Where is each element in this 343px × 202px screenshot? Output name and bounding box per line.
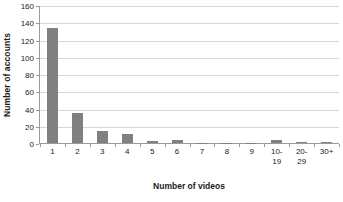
x-axis-tick-label: 30+ [314, 147, 339, 167]
y-axis-tick-label: 0 [30, 140, 34, 149]
bar[interactable] [147, 141, 158, 143]
y-axis-tick-label: 160 [21, 2, 34, 11]
y-axis-tick-mark [36, 58, 39, 59]
bar[interactable] [296, 142, 307, 143]
bar-chart: Number of accounts 160140120100806040200… [0, 0, 343, 202]
bar[interactable] [97, 131, 108, 143]
y-axis-tick-mark [36, 127, 39, 128]
x-axis-tick-label-line2: 19 [264, 157, 289, 167]
bar-slot [65, 6, 90, 143]
x-axis-tick-label-line1: 7 [190, 147, 215, 157]
y-axis-tick-label: 60 [25, 88, 34, 97]
y-axis-tick-mark [36, 23, 39, 24]
x-axis-tick-label: 5 [140, 147, 165, 167]
y-axis-tick-label: 80 [25, 71, 34, 80]
x-axis-tick-label-line1: 5 [140, 147, 165, 157]
x-axis-tick-label: 9 [239, 147, 264, 167]
x-axis-tick-label-line1: 1 [40, 147, 65, 157]
y-axis-title: Number of accounts [0, 0, 14, 150]
x-axis-tick-label: 10-19 [264, 147, 289, 167]
y-axis-tick-mark [36, 6, 39, 7]
bar-slot [190, 6, 215, 143]
bar[interactable] [47, 28, 58, 143]
y-axis-tick-label: 100 [21, 53, 34, 62]
bar-slot [40, 6, 65, 143]
bar[interactable] [321, 142, 332, 143]
x-axis-tick-label: 20-29 [289, 147, 314, 167]
y-axis-tick-label: 120 [21, 36, 34, 45]
y-axis-tick-label: 40 [25, 105, 34, 114]
x-axis-tick-label: 1 [40, 147, 65, 167]
x-axis-tick-label-line1: 4 [115, 147, 140, 157]
x-axis-tick-mark [339, 144, 340, 147]
y-axis-title-text: Number of accounts [2, 33, 12, 117]
y-axis-tick-label: 20 [25, 122, 34, 131]
bar[interactable] [72, 113, 83, 143]
bars-layer [40, 6, 339, 143]
x-axis-tick-label-line2: 29 [289, 157, 314, 167]
bar-slot [214, 6, 239, 143]
x-axis-tick-labels: 12345678910-1920-2930+ [40, 147, 339, 167]
x-axis-tick-label: 7 [190, 147, 215, 167]
bar-slot [140, 6, 165, 143]
bar-slot [264, 6, 289, 143]
bar-slot [165, 6, 190, 143]
x-axis-tick-label: 6 [165, 147, 190, 167]
y-axis-tick-mark [36, 41, 39, 42]
bar-slot [314, 6, 339, 143]
x-axis-tick-label-line1: 8 [214, 147, 239, 157]
x-axis-tick-label: 4 [115, 147, 140, 167]
bar-slot [115, 6, 140, 143]
bar-slot [239, 6, 264, 143]
bar[interactable] [122, 134, 133, 143]
bar[interactable] [172, 140, 183, 143]
bar-slot [90, 6, 115, 143]
x-axis-tick-label: 3 [90, 147, 115, 167]
y-axis-tick-labels: 160140120100806040200 [14, 6, 36, 144]
y-axis-tick-mark [36, 92, 39, 93]
x-axis-tick-label: 8 [214, 147, 239, 167]
x-axis-tick-label-line1: 6 [165, 147, 190, 157]
y-axis-tick-mark [36, 110, 39, 111]
y-axis-tick-label: 140 [21, 19, 34, 28]
x-axis-tick-label: 2 [65, 147, 90, 167]
bar-slot [289, 6, 314, 143]
bar[interactable] [271, 140, 282, 143]
plot-area [39, 6, 339, 144]
x-axis-tick-label-line1: 3 [90, 147, 115, 157]
x-axis-title: Number of videos [39, 181, 339, 191]
y-axis-tick-mark [36, 75, 39, 76]
x-axis-tick-label-line1: 9 [239, 147, 264, 157]
x-axis-tick-label-line1: 30+ [314, 147, 339, 157]
x-axis-tick-label-line1: 10- [264, 147, 289, 157]
x-axis-tick-label-line1: 2 [65, 147, 90, 157]
x-axis-tick-label-line1: 20- [289, 147, 314, 157]
